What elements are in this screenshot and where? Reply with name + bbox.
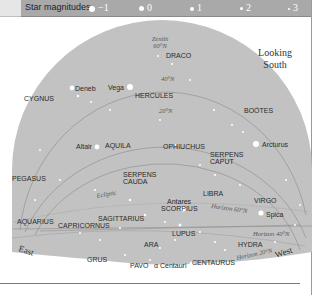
label-scorpius: SCORPIUS bbox=[161, 205, 198, 212]
zenith-label: Zenith bbox=[152, 35, 169, 42]
label-serpens-cauda-1: SERPENS bbox=[123, 171, 157, 178]
label-virgo: VIRGO bbox=[254, 197, 277, 204]
label-antares: Antares bbox=[167, 198, 192, 205]
label-bootes: BOÖTES bbox=[244, 107, 274, 114]
label-hydra: HYDRA bbox=[238, 241, 263, 248]
label-draco: DRACO bbox=[166, 52, 192, 59]
label-serpens-caput-1: SERPENS bbox=[210, 151, 244, 158]
label-grus: GRUS bbox=[87, 256, 108, 263]
label-vega: Vega bbox=[108, 84, 124, 92]
label-serpens-cauda-2: CAUDA bbox=[123, 178, 148, 185]
label-spica: Spica bbox=[266, 211, 284, 219]
label-arcturus: Arcturus bbox=[262, 141, 289, 148]
label-serpens-caput-2: CAPUT bbox=[210, 158, 234, 165]
label-centaurus: CENTAURUS bbox=[192, 259, 235, 266]
heading-line1: Looking bbox=[258, 47, 292, 58]
label-libra: LIBRA bbox=[203, 190, 224, 197]
zenith-lat-label: 60°N bbox=[153, 42, 167, 49]
label-hercules: HERCULES bbox=[135, 92, 173, 99]
lat-40-label: 40°N bbox=[161, 75, 175, 82]
label-capricornus: CAPRICORNUS bbox=[58, 222, 110, 229]
label-ophiuchus: OPHIUCHUS bbox=[163, 143, 205, 150]
label-altair: Altair bbox=[76, 143, 93, 150]
label-pegasus: PEGASUS bbox=[12, 175, 46, 182]
star-chart: Zenith 60°N Looking South 40°N 20°N Ecli… bbox=[0, 0, 323, 295]
label-aquarius: AQUARIUS bbox=[17, 218, 54, 226]
horizon-40-label: Horizon 40°N bbox=[252, 230, 290, 237]
label-sagittarius: SAGITTARIUS bbox=[98, 215, 144, 222]
label-alpha-centauri: α Centauri bbox=[154, 262, 187, 269]
heading-line2: South bbox=[263, 59, 286, 70]
label-lupus: LUPUS bbox=[172, 230, 196, 237]
label-cygnus: CYGNUS bbox=[24, 95, 54, 102]
lat-20-label: 20°N bbox=[159, 107, 173, 114]
label-ara: ARA bbox=[144, 241, 159, 248]
label-pavo: PAVO bbox=[130, 262, 149, 269]
label-aquila: AQUILA bbox=[105, 142, 131, 150]
label-deneb: Deneb bbox=[75, 85, 96, 92]
